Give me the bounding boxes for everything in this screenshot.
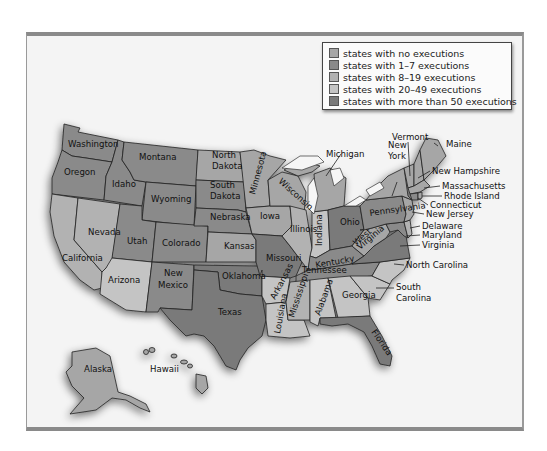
label-utah: Utah — [127, 236, 147, 246]
label-michigan: Michigan — [326, 149, 365, 159]
label-indiana: Indiana — [314, 214, 324, 246]
label-new-york-2: York — [387, 151, 406, 161]
state-arizona[interactable] — [100, 258, 152, 312]
label-georgia: Georgia — [342, 290, 376, 300]
label-alaska: Alaska — [84, 364, 112, 374]
legend: states with no executions states with 1–… — [322, 42, 512, 110]
legend-label: states with 8–19 executions — [343, 72, 475, 83]
label-north-carolina: North Carolina — [406, 260, 468, 270]
label-virginia: Virginia — [422, 240, 454, 250]
legend-label: states with 20–49 executions — [343, 84, 481, 95]
label-new-mexico-2: Mexico — [158, 280, 188, 290]
legend-swatch — [329, 84, 339, 94]
label-massachusetts: Massachusetts — [442, 181, 506, 191]
label-missouri: Missouri — [266, 253, 301, 263]
label-montana: Montana — [139, 152, 176, 162]
label-colorado: Colorado — [162, 238, 200, 248]
legend-swatch — [329, 60, 339, 70]
legend-label: states with 1–7 executions — [343, 60, 469, 71]
legend-swatch — [329, 72, 339, 82]
label-north-dakota-1: North — [212, 150, 236, 160]
legend-swatch — [329, 96, 339, 106]
label-nebraska: Nebraska — [210, 212, 251, 222]
legend-label: states with no executions — [343, 48, 464, 59]
label-iowa: Iowa — [260, 211, 280, 221]
legend-label: states with more than 50 executions — [343, 96, 517, 107]
label-ohio: Ohio — [340, 217, 360, 227]
label-oklahoma: Oklahoma — [222, 271, 266, 281]
state-wyoming[interactable] — [142, 182, 196, 226]
label-south-dakota-2: Dakota — [210, 191, 240, 201]
label-wyoming: Wyoming — [151, 194, 191, 204]
label-vermont: Vermont — [392, 132, 429, 142]
label-idaho: Idaho — [112, 179, 136, 189]
label-kansas: Kansas — [224, 241, 255, 251]
label-nevada: Nevada — [88, 227, 121, 237]
label-arizona: Arizona — [108, 275, 140, 285]
label-washington: Washington — [68, 139, 119, 149]
label-new-jersey: New Jersey — [426, 209, 474, 219]
legend-item-1-7-executions: states with 1–7 executions — [329, 59, 505, 71]
label-new-hampshire: New Hampshire — [432, 166, 500, 176]
label-north-dakota-2: Dakota — [212, 161, 242, 171]
label-south-carolina-2: Carolina — [396, 293, 431, 303]
legend-item-over-50-executions: states with more than 50 executions — [329, 95, 505, 107]
label-south-carolina-1: South — [396, 282, 421, 292]
label-texas: Texas — [217, 307, 242, 317]
legend-item-no-executions: states with no executions — [329, 47, 505, 59]
legend-swatch — [329, 48, 339, 58]
label-south-dakota-1: South — [210, 180, 235, 190]
label-hawaii: Hawaii — [150, 364, 179, 374]
label-oregon: Oregon — [64, 167, 96, 177]
label-maine: Maine — [446, 139, 472, 149]
label-california: California — [62, 253, 103, 263]
legend-item-8-19-executions: states with 8–19 executions — [329, 71, 505, 83]
state-alaska[interactable] — [66, 348, 150, 414]
label-maryland: Maryland — [422, 230, 462, 240]
label-new-mexico-1: New — [164, 268, 183, 278]
legend-item-20-49-executions: states with 20–49 executions — [329, 83, 505, 95]
